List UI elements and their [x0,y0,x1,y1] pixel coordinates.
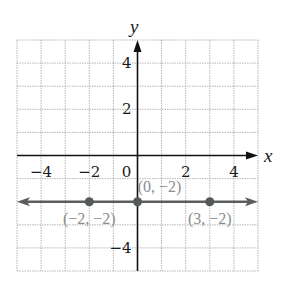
point-label: (−2, −2) [63,210,116,228]
data-point [85,197,94,206]
x-tick-label: 4 [229,163,239,181]
x-tick-label: −4 [30,163,52,181]
y-axis-label: y [128,16,139,37]
y-axis-arrow-icon [134,40,142,52]
axes [17,40,258,271]
y-tick-label: 2 [122,100,132,118]
x-tick-label: 0 [122,163,132,181]
x-tick-label: 2 [181,163,191,181]
coordinate-plane: −4−202442−4 (−2, −2)(0, −2)(3, −2) x y [0,0,296,282]
point-label: (3, −2) [188,210,232,228]
x-tick-label: −2 [78,163,100,181]
point-label: (0, −2) [138,178,182,196]
y-tick-label: −4 [109,239,131,257]
x-axis-arrow-icon [246,152,258,160]
x-axis-label: x [263,145,273,166]
data-point [205,197,214,206]
data-point [133,197,142,206]
y-tick-label: 4 [122,54,132,72]
